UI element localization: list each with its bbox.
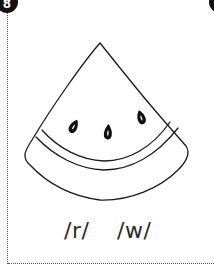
phoneme-r: /r/ [64, 218, 89, 243]
phoneme-w: /w/ [117, 218, 151, 243]
seeds [67, 109, 147, 140]
flashcard: 8 /r/ /w/ [0, 0, 214, 275]
phoneme-labels: /r/ /w/ [0, 218, 214, 248]
